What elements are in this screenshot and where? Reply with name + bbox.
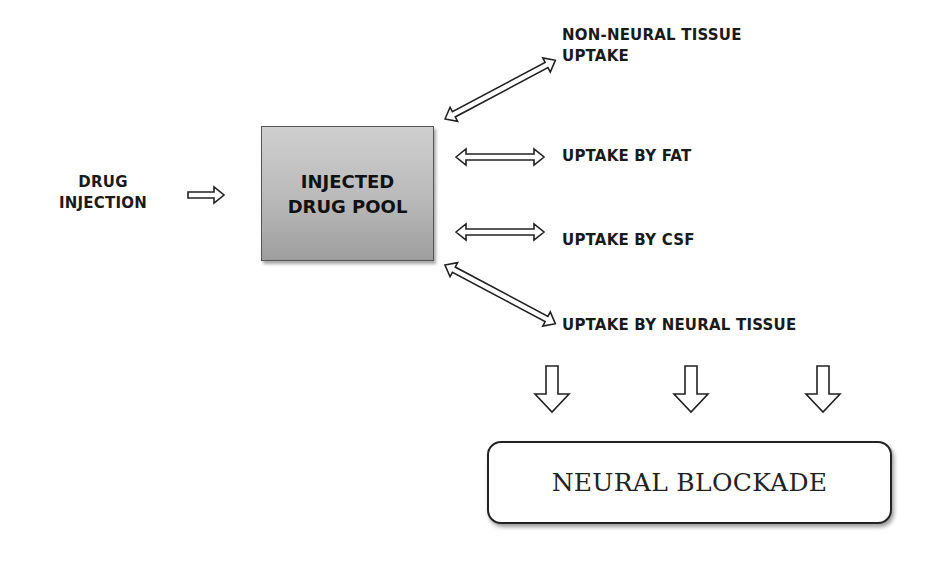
arrows-layer xyxy=(0,0,941,562)
double-headed-hollow-arrow-icon xyxy=(441,258,559,331)
down-hollow-arrow-icon xyxy=(674,366,708,412)
double-headed-hollow-arrow-icon xyxy=(441,53,559,126)
down-hollow-arrow-icon xyxy=(806,366,840,412)
diagram-canvas: DRUG INJECTION INJECTED DRUG POOL NON-NE… xyxy=(0,0,941,562)
double-headed-hollow-arrow-icon xyxy=(456,224,544,240)
down-hollow-arrow-icon xyxy=(535,366,569,412)
double-headed-hollow-arrow-icon xyxy=(456,149,544,165)
right-hollow-arrow-icon xyxy=(188,187,224,203)
